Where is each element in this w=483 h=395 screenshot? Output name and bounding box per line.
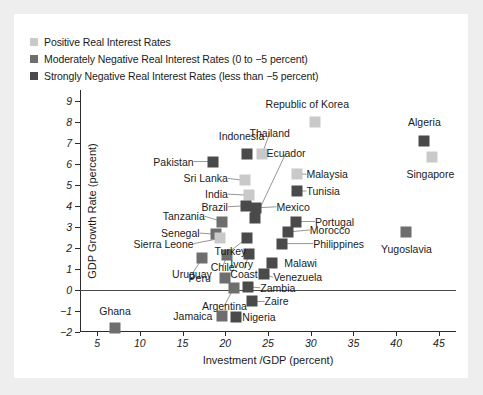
data-label-sierra-leone: Sierra Leone: [134, 238, 194, 249]
legend-item-moderate: Moderately Negative Real Interest Rates …: [30, 51, 318, 66]
y-tick-label: 7: [66, 137, 72, 149]
x-tick-label: 5: [94, 337, 100, 349]
y-tick-label: 5: [66, 179, 72, 191]
legend-item-strong: Strongly Negative Real Interest Rates (l…: [30, 68, 318, 83]
data-marker-philippines: [276, 238, 287, 249]
chart-legend: Positive Real Interest RatesModerately N…: [30, 34, 318, 85]
data-label-philippines: Philippines: [313, 238, 364, 249]
data-label-yugoslavia: Yugoslavia: [381, 243, 432, 254]
data-marker-ghana: [110, 322, 121, 333]
data-marker-argentina: [228, 282, 239, 293]
legend-label-moderate: Moderately Negative Real Interest Rates …: [44, 53, 308, 65]
x-tick: [396, 331, 397, 336]
data-marker-mexico: [251, 202, 262, 213]
data-marker-singapore: [427, 152, 438, 163]
x-tick-label: 45: [433, 337, 445, 349]
y-tick: [75, 290, 80, 291]
data-marker-venezuela: [258, 269, 269, 280]
y-tick-label: 3: [66, 221, 72, 233]
x-tick: [225, 331, 226, 336]
x-tick-label: 10: [134, 337, 146, 349]
plot-area: −2−10123456789 51015202530354045 Republi…: [80, 90, 456, 332]
data-label-zaire: Zaire: [265, 296, 289, 307]
y-axis-title: GDP Growth Rate (percent): [86, 143, 98, 279]
y-tick: [75, 269, 80, 270]
data-label-mexico: Mexico: [277, 201, 310, 212]
data-label-tunisia: Tunisia: [306, 186, 339, 197]
data-label-tanzania: Tanzania: [163, 211, 205, 222]
data-label-morocco: Morocco: [310, 224, 350, 235]
data-marker-turkey: [241, 233, 252, 244]
y-tick: [75, 248, 80, 249]
y-tick-label: −2: [60, 326, 72, 338]
data-marker-zambia: [243, 281, 254, 292]
y-tick: [75, 185, 80, 186]
y-tick-label: 4: [66, 200, 72, 212]
y-tick-label: 0: [66, 284, 72, 296]
y-tick-label: 9: [66, 95, 72, 107]
y-tick: [75, 164, 80, 165]
legend-swatch-strong: [30, 72, 38, 80]
x-tick: [353, 331, 354, 336]
data-label-brazil: Brazil: [202, 201, 228, 212]
data-marker-portugal: [291, 216, 302, 227]
legend-swatch-moderate: [30, 55, 38, 63]
data-label-thailand: Thailand: [250, 128, 290, 139]
data-marker-malaysia: [292, 169, 303, 180]
data-marker-pakistan: [208, 156, 219, 167]
legend-swatch-positive: [30, 38, 38, 46]
x-tick: [268, 331, 269, 336]
data-label-india: India: [205, 189, 228, 200]
legend-label-positive: Positive Real Interest Rates: [44, 36, 171, 48]
data-marker-malawi: [267, 257, 278, 268]
data-marker-sri-lanka: [239, 175, 250, 186]
x-tick-label: 40: [390, 337, 402, 349]
y-tick: [75, 227, 80, 228]
data-marker-ecuador: [250, 213, 261, 224]
data-label-ivory-coast: Ivory Coast: [230, 258, 257, 279]
y-tick-label: 2: [66, 242, 72, 254]
data-marker-tunisia: [292, 186, 303, 197]
y-tick: [75, 122, 80, 123]
data-label-algeria: Algeria: [408, 116, 441, 127]
y-tick-label: −1: [60, 305, 72, 317]
y-tick-label: 8: [66, 116, 72, 128]
y-tick: [75, 101, 80, 102]
data-marker-algeria: [419, 135, 430, 146]
data-label-jamaica: Jamaica: [173, 311, 212, 322]
legend-label-strong: Strongly Negative Real Interest Rates (l…: [44, 70, 318, 82]
data-label-zambia: Zambia: [260, 282, 295, 293]
x-tick-label: 20: [219, 337, 231, 349]
data-label-nigeria: Nigeria: [242, 312, 275, 323]
data-marker-nigeria: [230, 312, 241, 323]
y-tick: [75, 206, 80, 207]
y-tick: [75, 311, 80, 312]
x-tick: [311, 331, 312, 336]
data-marker-sierra-leone: [215, 233, 226, 244]
x-tick-label: 35: [348, 337, 360, 349]
data-marker-indonesia: [242, 149, 253, 160]
figure-card: Positive Real Interest RatesModerately N…: [14, 14, 468, 378]
data-label-peru: Peru: [189, 273, 211, 284]
data-marker-india: [244, 190, 255, 201]
y-tick: [75, 143, 80, 144]
data-label-sri-lanka: Sri Lanka: [183, 173, 227, 184]
data-marker-tanzania: [216, 216, 227, 227]
data-label-ghana: Ghana: [99, 305, 131, 316]
y-tick: [75, 332, 80, 333]
data-marker-zaire: [246, 296, 257, 307]
y-tick-label: 6: [66, 158, 72, 170]
data-marker-republic-of-korea: [310, 116, 321, 127]
x-tick-label: 30: [305, 337, 317, 349]
data-marker-yugoslavia: [400, 227, 411, 238]
legend-item-positive: Positive Real Interest Rates: [30, 34, 318, 49]
data-marker-uruguay: [197, 253, 208, 264]
x-tick-label: 15: [177, 337, 189, 349]
data-label-malaysia: Malaysia: [306, 169, 347, 180]
x-tick: [97, 331, 98, 336]
data-label-pakistan: Pakistan: [153, 156, 193, 167]
data-marker-morocco: [282, 227, 293, 238]
x-tick: [140, 331, 141, 336]
data-label-ecuador: Ecuador: [266, 148, 305, 159]
x-tick: [439, 331, 440, 336]
